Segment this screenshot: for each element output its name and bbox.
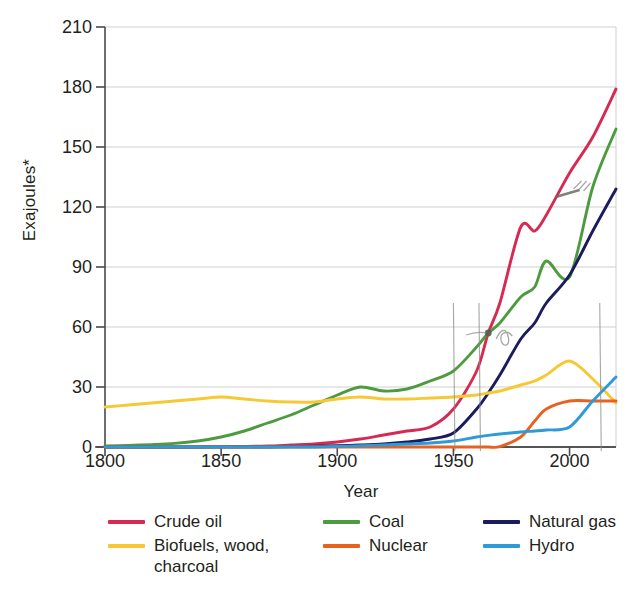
plot-area (0, 0, 630, 470)
data-series-group (105, 89, 616, 447)
legend-entry-biofuels-wood-charcoal[interactable]: Biofuels, wood, charcoal (108, 536, 323, 577)
axis-lines (95, 27, 616, 447)
legend-label: Natural gas (529, 512, 616, 532)
energy-consumption-chart-figure: Exajoules* 0306090120150180210 180018501… (0, 0, 630, 608)
legend-label: Crude oil (154, 512, 222, 532)
pencil-stroke-1 (466, 332, 486, 335)
legend-entry-coal[interactable]: Coal (323, 512, 483, 532)
legend-color-swatch (323, 544, 360, 548)
legend-color-swatch (108, 544, 145, 548)
pencil-vertical-line-4 (600, 303, 602, 451)
pencil-vertical-line-3 (479, 303, 481, 451)
legend-entry-hydro[interactable]: Hydro (483, 536, 630, 577)
legend-entry-nuclear[interactable]: Nuclear (323, 536, 483, 577)
gridlines (105, 27, 616, 447)
series-line-crude-oil (105, 89, 616, 447)
legend-label: Hydro (529, 536, 574, 556)
chart-legend: Crude oilCoalNatural gasBiofuels, wood, … (108, 512, 620, 577)
legend-entry-natural-gas[interactable]: Natural gas (483, 512, 630, 532)
legend-color-swatch (323, 520, 360, 524)
x-axis-title: Year (105, 482, 617, 502)
legend-color-swatch (108, 520, 145, 524)
legend-label: Biofuels, wood, charcoal (154, 536, 319, 577)
legend-color-swatch (483, 520, 520, 524)
legend-entry-crude-oil[interactable]: Crude oil (108, 512, 323, 532)
pencil-scribble-1 (496, 330, 512, 345)
pencil-scribble-2 (574, 181, 591, 191)
legend-label: Nuclear (369, 536, 428, 556)
series-line-biofuels-wood-charcoal (105, 361, 616, 407)
legend-label: Coal (369, 512, 404, 532)
legend-color-swatch (483, 544, 520, 548)
pencil-vertical-line-2 (453, 303, 455, 451)
